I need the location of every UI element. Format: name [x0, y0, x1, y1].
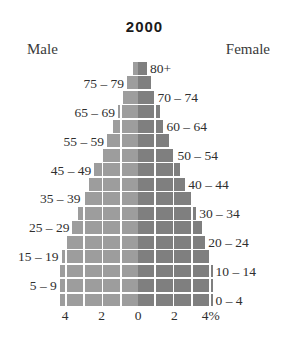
female-bar — [138, 62, 147, 76]
pyramid-row: 55 – 59 — [0, 134, 289, 148]
female-bar — [138, 250, 211, 264]
female-bar — [138, 91, 154, 105]
male-bar — [127, 76, 138, 90]
male-bar — [60, 279, 138, 293]
chart-title: 2000 — [0, 18, 289, 35]
male-bar — [62, 250, 138, 264]
pyramid-row: 50 – 54 — [0, 149, 289, 163]
age-group-label: 20 – 24 — [208, 235, 249, 251]
pyramid-row: 25 – 29 — [0, 221, 289, 235]
male-bar — [67, 236, 138, 250]
age-group-label: 55 – 59 — [64, 134, 105, 150]
male-bar — [118, 105, 138, 119]
male-bar — [78, 207, 138, 221]
female-bar — [138, 236, 205, 250]
male-bar — [60, 294, 138, 308]
age-group-label: 15 – 19 — [18, 249, 59, 265]
female-bar — [138, 163, 180, 177]
age-group-label: 65 – 69 — [74, 105, 115, 121]
male-bar — [72, 221, 138, 235]
age-group-label: 0 – 4 — [216, 293, 243, 309]
age-group-label: 80+ — [150, 61, 171, 77]
x-axis-tick: 2 — [98, 308, 105, 324]
female-bar — [138, 120, 163, 134]
age-group-label: 70 – 74 — [157, 90, 198, 106]
pyramid-row: 20 – 24 — [0, 236, 289, 250]
age-group-label: 5 – 9 — [30, 278, 57, 294]
pyramid-row: 5 – 9 — [0, 279, 289, 293]
x-axis-tick: 2 — [171, 308, 178, 324]
age-group-label: 10 – 14 — [216, 264, 257, 280]
x-axis: 42024% — [0, 308, 289, 328]
pyramid-row: 0 – 4 — [0, 294, 289, 308]
age-group-label: 35 – 39 — [40, 191, 81, 207]
population-pyramid-chart: 2000 Male Female 80+75 – 7970 – 7465 – 6… — [0, 0, 289, 342]
female-bar — [138, 134, 169, 148]
male-side-label: Male — [27, 41, 58, 58]
female-bar — [138, 279, 213, 293]
x-axis-tick: 4% — [202, 308, 220, 324]
pyramid-row: 70 – 74 — [0, 91, 289, 105]
female-bar — [138, 178, 185, 192]
female-side-label: Female — [226, 41, 270, 58]
pyramid-plot-area: 80+75 – 7970 – 7465 – 6960 – 6455 – 5950… — [0, 62, 289, 308]
age-group-label: 45 – 49 — [51, 163, 92, 179]
pyramid-row: 45 – 49 — [0, 163, 289, 177]
age-group-label: 75 – 79 — [84, 76, 125, 92]
pyramid-row: 75 – 79 — [0, 76, 289, 90]
pyramid-row: 65 – 69 — [0, 105, 289, 119]
male-bar — [94, 163, 138, 177]
female-bar — [138, 105, 160, 119]
male-bar — [123, 91, 138, 105]
female-bar — [138, 192, 191, 206]
female-bar — [138, 149, 174, 163]
female-bar — [138, 207, 196, 221]
male-bar — [60, 265, 138, 279]
x-axis-tick: 0 — [135, 308, 142, 324]
pyramid-row: 15 – 19 — [0, 250, 289, 264]
age-group-label: 30 – 34 — [199, 206, 240, 222]
pyramid-row: 40 – 44 — [0, 178, 289, 192]
age-group-label: 50 – 54 — [177, 148, 218, 164]
age-group-label: 25 – 29 — [29, 220, 70, 236]
age-group-label: 40 – 44 — [188, 177, 229, 193]
pyramid-row: 80+ — [0, 62, 289, 76]
pyramid-row: 35 – 39 — [0, 192, 289, 206]
male-bar — [107, 134, 138, 148]
female-bar — [138, 294, 213, 308]
female-bar — [138, 265, 213, 279]
male-bar — [83, 192, 138, 206]
pyramid-row: 30 – 34 — [0, 207, 289, 221]
male-bar — [89, 178, 138, 192]
female-bar — [138, 76, 151, 90]
female-bar — [138, 221, 202, 235]
pyramid-row: 10 – 14 — [0, 265, 289, 279]
x-axis-tick: 4 — [62, 308, 69, 324]
male-bar — [102, 149, 138, 163]
age-group-label: 60 – 64 — [166, 119, 207, 135]
pyramid-row: 60 – 64 — [0, 120, 289, 134]
male-bar — [113, 120, 138, 134]
